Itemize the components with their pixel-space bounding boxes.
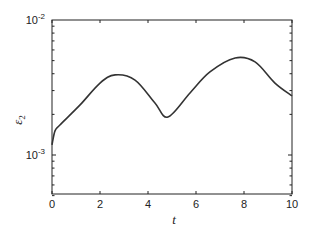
y-axis-label: ε2 bbox=[10, 115, 27, 125]
x-axis-label: t bbox=[172, 212, 176, 227]
x-tick-label: 10 bbox=[286, 198, 298, 210]
x-tick-label: 4 bbox=[145, 198, 151, 210]
x-tick-label: 8 bbox=[241, 198, 247, 210]
x-tick-label: 0 bbox=[49, 198, 55, 210]
y-tick-label: 10-2 bbox=[26, 12, 46, 26]
y-axis-ticks: 10-310-2 bbox=[26, 12, 292, 196]
data-line bbox=[52, 57, 292, 144]
y-tick-label: 10-3 bbox=[26, 147, 46, 161]
x-axis-ticks: 0246810 bbox=[49, 20, 298, 210]
line-chart: 0246810 10-310-2 t ε2 bbox=[0, 0, 309, 233]
x-tick-label: 2 bbox=[97, 198, 103, 210]
x-tick-label: 6 bbox=[193, 198, 199, 210]
plot-frame bbox=[52, 20, 292, 194]
